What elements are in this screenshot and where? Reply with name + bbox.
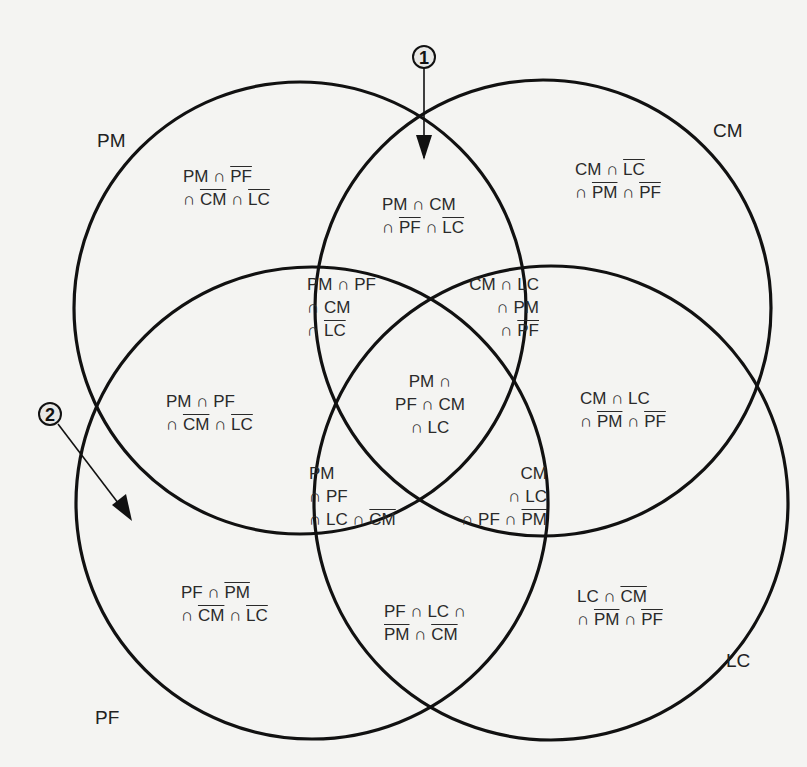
complement-term: PM: [224, 583, 250, 602]
complement-term: CM: [369, 510, 395, 529]
region-label-line: CM: [440, 462, 547, 485]
term: PM ∩ PF: [166, 392, 235, 411]
term: ∩: [622, 412, 644, 431]
term: PM ∩ PF: [307, 275, 376, 294]
complement-term: CM: [431, 625, 457, 644]
region-label-line: PM ∩ PF: [307, 273, 376, 296]
complement-term: LC: [324, 321, 346, 340]
term: ∩: [307, 321, 324, 340]
region-label-line: PM ∩: [375, 370, 485, 393]
term: ∩: [183, 190, 200, 209]
region-pf-lc: PF ∩ LC ∩PM ∩ CM: [384, 600, 466, 646]
complement-term: LC: [231, 415, 253, 434]
region-all-four: PM ∩PF ∩ CM∩ LC: [375, 370, 485, 439]
region-label-line: ∩ LC: [307, 319, 376, 342]
region-label-line: ∩ CM ∩ LC: [181, 604, 268, 627]
region-label-line: PM ∩ PF: [166, 390, 253, 413]
term: ∩: [181, 606, 198, 625]
region-label-line: ∩ PM ∩ PF: [577, 608, 663, 631]
complement-term: PM: [594, 610, 620, 629]
region-cm-lc: CM ∩ LC∩ PM ∩ PF: [580, 387, 666, 433]
term: ∩: [410, 625, 432, 644]
marker-1: 1: [413, 46, 435, 160]
region-label-line: CM ∩ LC: [580, 387, 666, 410]
term: PF ∩ CM: [395, 395, 465, 414]
term: ∩ LC: [411, 418, 450, 437]
region-cm-lc-pf: CM∩ LC∩ PF ∩ PM: [440, 462, 547, 531]
region-label-line: ∩ PM ∩ PF: [580, 410, 666, 433]
region-cm-only: CM ∩ LC∩ PM ∩ PF: [575, 158, 661, 204]
region-label-line: LC ∩ CM: [577, 585, 663, 608]
set-label-pm: PM: [97, 130, 126, 152]
region-label-line: CM ∩ LC: [575, 158, 661, 181]
marker-1-label: 1: [419, 48, 429, 68]
region-pm-pf: PM ∩ PF∩ CM ∩ LC: [166, 390, 253, 436]
term: ∩: [421, 218, 443, 237]
marker-2-label: 2: [45, 405, 55, 425]
complement-term: PF: [517, 321, 539, 340]
term: ∩: [577, 610, 594, 629]
region-label-line: ∩ PF: [459, 319, 539, 342]
term: CM: [521, 464, 547, 483]
term: ∩: [166, 415, 183, 434]
term: PF ∩ LC ∩: [384, 602, 466, 621]
term: ∩ PF ∩: [461, 510, 521, 529]
region-label-line: ∩ PF ∩ LC: [382, 216, 464, 239]
complement-term: PF: [230, 167, 252, 186]
term: ∩: [580, 412, 597, 431]
marker-2: 2: [39, 403, 132, 521]
region-pm-only: PM ∩ PF∩ CM ∩ LC: [183, 165, 270, 211]
term: ∩: [617, 183, 639, 202]
complement-term: LC: [442, 218, 464, 237]
term: ∩: [619, 610, 641, 629]
region-label-line: ∩ PF: [309, 485, 396, 508]
region-label-line: PF ∩ CM: [375, 393, 485, 416]
region-label-line: ∩ LC: [375, 416, 485, 439]
term: ∩: [382, 218, 399, 237]
set-label-lc: LC: [726, 650, 750, 672]
term: ∩: [224, 606, 246, 625]
term: PM ∩: [409, 372, 451, 391]
term: LC ∩: [577, 587, 620, 606]
term: ∩ LC ∩: [309, 510, 369, 529]
term: CM ∩: [575, 160, 623, 179]
complement-term: PF: [644, 412, 666, 431]
region-label-line: ∩ CM ∩ LC: [166, 413, 253, 436]
region-pm-pf-cm: PM ∩ PF∩ CM∩ LC: [307, 273, 376, 342]
region-label-line: ∩ PF ∩ PM: [440, 508, 547, 531]
region-label-line: ∩ PM ∩ PF: [575, 181, 661, 204]
term: ∩ LC: [508, 487, 547, 506]
region-label-line: PM ∩ CM: [384, 623, 466, 646]
region-label-line: PF ∩ LC ∩: [384, 600, 466, 623]
region-cm-lc-pm: CM ∩ LC∩ PM∩ PF: [459, 273, 539, 342]
term: ∩ CM: [307, 298, 350, 317]
region-label-line: ∩ LC: [440, 485, 547, 508]
region-label-line: PM: [309, 462, 396, 485]
complement-term: PM: [597, 412, 623, 431]
term: PM ∩ CM: [382, 195, 456, 214]
complement-term: PF: [639, 183, 661, 202]
term: ∩: [226, 190, 248, 209]
complement-term: LC: [248, 190, 270, 209]
complement-term: LC: [623, 160, 645, 179]
complement-term: CM: [620, 587, 646, 606]
term: CM ∩ LC: [580, 389, 650, 408]
region-label-line: ∩ PM: [459, 296, 539, 319]
term: ∩: [209, 415, 231, 434]
region-pm-pf-lc: PM∩ PF∩ LC ∩ CM: [309, 462, 396, 531]
set-label-cm: CM: [713, 120, 743, 142]
region-label-line: ∩ CM: [307, 296, 376, 319]
region-label-line: ∩ CM ∩ LC: [183, 188, 270, 211]
region-lc-only: LC ∩ CM∩ PM ∩ PF: [577, 585, 663, 631]
region-label-line: PF ∩ PM: [181, 581, 268, 604]
term: PM ∩: [183, 167, 230, 186]
region-label-line: ∩ LC ∩ CM: [309, 508, 396, 531]
region-label-line: PM ∩ PF: [183, 165, 270, 188]
term: PM: [309, 464, 335, 483]
complement-term: LC: [246, 606, 268, 625]
marker-1-arrowhead: [416, 135, 432, 160]
complement-term: PM: [592, 183, 618, 202]
term: CM ∩ LC: [469, 275, 539, 294]
region-label-line: PM ∩ CM: [382, 193, 464, 216]
region-label-line: CM ∩ LC: [459, 273, 539, 296]
